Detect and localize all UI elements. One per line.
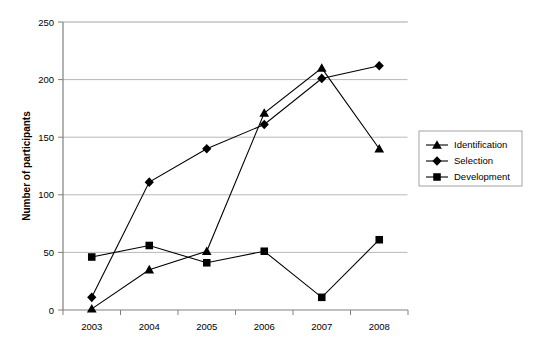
legend-label-selection: Selection <box>454 155 493 166</box>
y-tick-label-150: 150 <box>38 132 54 143</box>
chart-legend: IdentificationSelectionDevelopment <box>419 131 522 186</box>
data-point-development-2007 <box>318 294 326 302</box>
legend-label-development: Development <box>454 171 510 182</box>
line-chart: 050100150200250 200320042005200620072008… <box>0 0 536 347</box>
plot-area-background <box>63 22 408 310</box>
y-axis-ticks <box>58 22 63 310</box>
x-tick-label-2003: 2003 <box>81 321 102 332</box>
legend-marker-development <box>433 173 441 181</box>
x-tick-label-2007: 2007 <box>311 321 332 332</box>
x-tick-label-2006: 2006 <box>254 321 275 332</box>
data-point-development-2005 <box>203 259 211 267</box>
chart-container: 050100150200250 200320042005200620072008… <box>0 0 536 347</box>
x-tick-label-2005: 2005 <box>196 321 217 332</box>
legend-label-identification: Identification <box>454 139 507 150</box>
x-tick-label-2004: 2004 <box>139 321 160 332</box>
data-point-development-2004 <box>145 242 153 250</box>
data-point-development-2006 <box>260 247 268 255</box>
y-tick-label-200: 200 <box>38 74 54 85</box>
x-axis-ticks <box>63 310 408 315</box>
y-axis-title: Number of participants <box>21 111 32 221</box>
y-tick-label-100: 100 <box>38 189 54 200</box>
y-tick-label-50: 50 <box>43 247 54 258</box>
y-tick-label-0: 0 <box>49 305 54 316</box>
y-axis-tick-labels: 050100150200250 <box>38 17 54 316</box>
y-tick-label-250: 250 <box>38 17 54 28</box>
x-tick-label-2008: 2008 <box>369 321 390 332</box>
data-point-development-2008 <box>375 236 383 244</box>
x-axis-tick-labels: 200320042005200620072008 <box>81 321 390 332</box>
data-point-development-2003 <box>88 253 96 261</box>
